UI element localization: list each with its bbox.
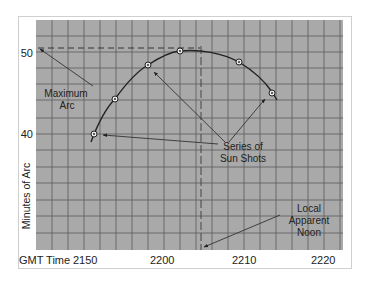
- sun-altitude-chart: Maximum Arc Series of Sun Shots Local Ap…: [0, 0, 375, 287]
- noon-label-line1: Local: [297, 203, 321, 214]
- x-axis-label: GMT Time: [19, 254, 70, 266]
- x-tick-2200: 2200: [150, 254, 174, 266]
- x-tick-2210: 2210: [232, 254, 256, 266]
- maximum-arc-label-line1: Maximum: [44, 88, 87, 99]
- sun-shots-label-line2: Sun Shots: [220, 153, 266, 164]
- noon-label-line2: Apparent: [289, 215, 330, 226]
- maximum-arc-label-line2: Arc: [60, 100, 75, 111]
- x-tick-2150: 2150: [73, 254, 97, 266]
- y-tick-50: 50: [21, 47, 33, 59]
- y-axis-label: Minutes of Arc: [20, 163, 32, 230]
- x-tick-2220: 2220: [311, 254, 335, 266]
- y-tick-40: 40: [21, 128, 33, 140]
- sun-shots-label-line1: Series of: [223, 141, 263, 152]
- noon-label-line3: Noon: [297, 227, 321, 238]
